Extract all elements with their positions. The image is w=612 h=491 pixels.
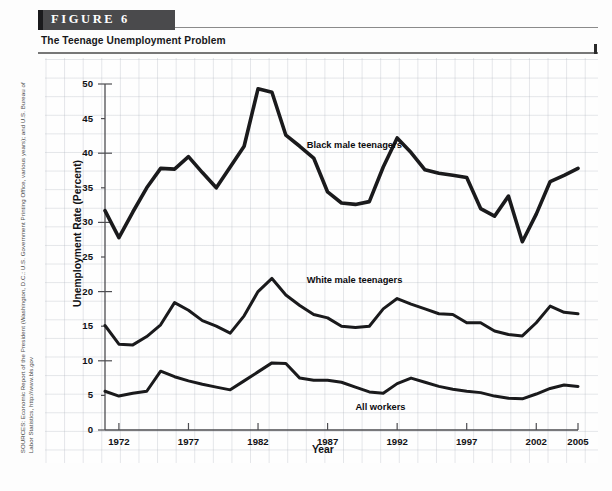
y-tick-label: 40 bbox=[71, 147, 93, 158]
header-rule-endcap bbox=[594, 44, 597, 54]
y-tick-label: 30 bbox=[71, 216, 93, 227]
chart-svg bbox=[45, 58, 598, 463]
y-tick-label: 0 bbox=[71, 424, 93, 435]
y-tick-label: 15 bbox=[71, 320, 93, 331]
x-tick-label: 2002 bbox=[516, 436, 556, 447]
y-tick-label: 35 bbox=[71, 182, 93, 193]
sources-note: SOURCES: Economic Report of the Presiden… bbox=[19, 73, 35, 453]
header-rule-top bbox=[175, 27, 598, 28]
sources-text: SOURCES: Economic Report of the Presiden… bbox=[19, 82, 34, 453]
y-tick-label: 10 bbox=[71, 355, 93, 366]
y-tick-label: 25 bbox=[71, 251, 93, 262]
header-rule-bottom bbox=[38, 52, 598, 54]
x-tick-label: 1987 bbox=[308, 436, 348, 447]
series-label: All workers bbox=[355, 402, 405, 412]
y-tick-label: 50 bbox=[71, 78, 93, 89]
x-tick-label: 1982 bbox=[238, 436, 278, 447]
series-label: Black male teenagers bbox=[307, 140, 402, 150]
figure-number-label: FIGURE 6 bbox=[51, 12, 130, 27]
figure-tab-accent-bar bbox=[38, 10, 43, 30]
figure-title: The Teenage Unemployment Problem bbox=[41, 35, 226, 46]
y-tick-label: 45 bbox=[71, 113, 93, 124]
x-tick-label: 2005 bbox=[558, 436, 598, 447]
x-tick-label: 1997 bbox=[447, 436, 487, 447]
figure-page: SOURCES: Economic Report of the Presiden… bbox=[0, 0, 612, 491]
series-label: White male teenagers bbox=[307, 275, 403, 285]
x-tick-label: 1992 bbox=[377, 436, 417, 447]
x-tick-label: 1972 bbox=[99, 436, 139, 447]
y-tick-label: 20 bbox=[71, 286, 93, 297]
figure-header: FIGURE 6 The Teenage Unemployment Proble… bbox=[38, 8, 598, 54]
x-tick-label: 1977 bbox=[168, 436, 208, 447]
chart-plot-area: Unemployment Rate (Percent) Year 0510152… bbox=[45, 58, 598, 463]
y-tick-label: 5 bbox=[71, 389, 93, 400]
